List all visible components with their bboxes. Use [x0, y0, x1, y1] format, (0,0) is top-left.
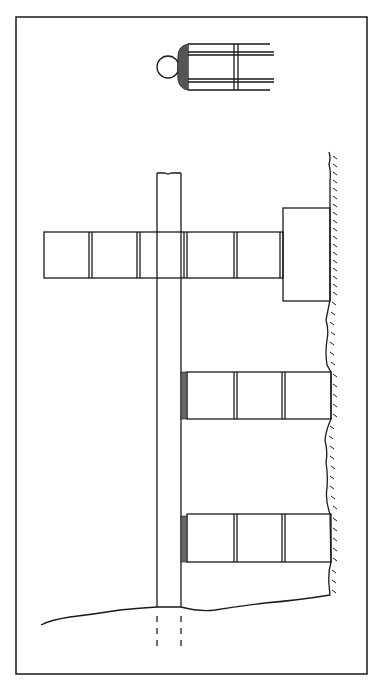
post-buried-dashed: [157, 616, 181, 652]
upper-arm-blocks: [44, 232, 283, 278]
bond-layer: [181, 516, 187, 562]
weld-bead: [178, 44, 189, 90]
drawing-frame: [16, 17, 367, 674]
lower-arm-blocks: [181, 514, 331, 562]
bond-layer: [181, 372, 187, 419]
inset-rod-weld-detail: [157, 44, 274, 90]
footing-block: [283, 208, 330, 301]
vertical-post: [157, 173, 181, 652]
post-break-line: [157, 173, 181, 174]
rod-cross-section-icon: [157, 56, 179, 78]
technical-drawing: [0, 0, 372, 684]
middle-arm-blocks: [181, 372, 331, 419]
